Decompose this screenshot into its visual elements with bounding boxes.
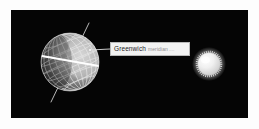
leader-anchor-dot	[89, 49, 91, 51]
greenwich-meridian-callout[interactable]: Greenwich meridian ....	[110, 42, 190, 56]
earth-globe-group	[31, 23, 108, 102]
globe-highlight	[67, 32, 99, 80]
callout-label: Greenwich	[114, 46, 146, 53]
diagram-figure: Greenwich meridian ....	[0, 0, 259, 129]
sun-specular-highlight	[201, 56, 210, 63]
scene-canvas: Greenwich meridian ....	[11, 10, 248, 118]
sun-group	[192, 47, 226, 81]
night-side-shading	[38, 33, 72, 91]
callout-sublabel: meridian	[148, 47, 168, 52]
callout-trailing-dots: ....	[169, 47, 175, 52]
scene-graphics	[11, 10, 248, 118]
